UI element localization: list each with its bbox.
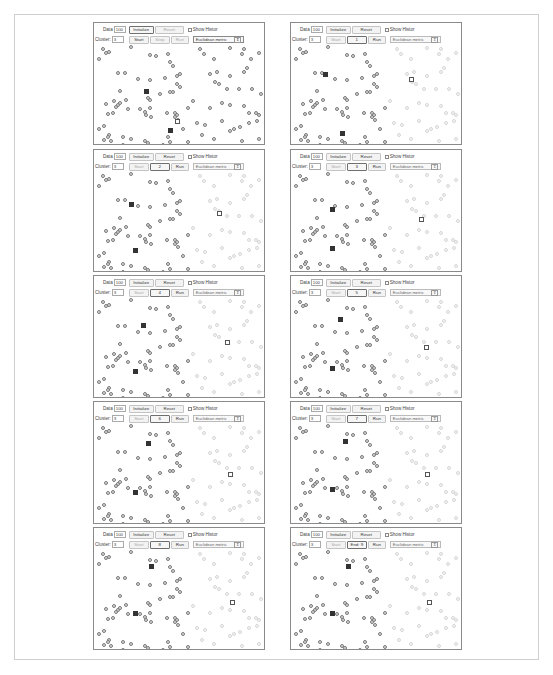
initialize-button[interactable]: Initialize bbox=[129, 531, 154, 539]
metric-select[interactable]: Euclidean metric ⇕ bbox=[193, 415, 244, 422]
show-history-checkbox[interactable]: Show Histor bbox=[385, 154, 415, 159]
checkbox-icon[interactable] bbox=[188, 533, 192, 537]
step-button[interactable]: 1 bbox=[347, 36, 367, 44]
initialize-button[interactable]: Initialize bbox=[129, 405, 154, 413]
cluster-count-input[interactable]: 3 bbox=[309, 36, 321, 43]
metric-select[interactable]: Euclidean metric ⇕ bbox=[193, 289, 244, 296]
start-button[interactable]: Start bbox=[326, 36, 346, 44]
run-button[interactable]: Run bbox=[171, 36, 189, 44]
cluster-count-input[interactable]: 3 bbox=[112, 541, 124, 548]
checkbox-icon[interactable] bbox=[188, 407, 192, 411]
cluster-count-input[interactable]: 3 bbox=[309, 289, 321, 296]
scatter-plot-canvas[interactable] bbox=[291, 549, 461, 650]
initialize-button[interactable]: Initialize bbox=[326, 26, 351, 34]
metric-select[interactable]: Euclidean metric ⇕ bbox=[390, 36, 441, 43]
checkbox-icon[interactable] bbox=[385, 407, 389, 411]
run-button[interactable]: Run bbox=[171, 289, 189, 297]
step-button[interactable]: End: 9 bbox=[347, 541, 367, 549]
step-button[interactable]: Step bbox=[150, 36, 170, 44]
start-button[interactable]: Start bbox=[129, 289, 149, 297]
scatter-plot-canvas[interactable] bbox=[291, 44, 461, 145]
start-button[interactable]: Start bbox=[326, 415, 346, 423]
checkbox-icon[interactable] bbox=[385, 281, 389, 285]
start-button[interactable]: Start bbox=[129, 36, 149, 44]
data-count-input[interactable]: 100 bbox=[311, 279, 323, 286]
run-button[interactable]: Run bbox=[368, 289, 386, 297]
data-count-input[interactable]: 100 bbox=[114, 279, 126, 286]
show-history-checkbox[interactable]: Show Histor bbox=[385, 280, 415, 285]
scatter-plot-canvas[interactable] bbox=[94, 549, 264, 650]
reset-button[interactable]: Reset bbox=[352, 405, 381, 413]
data-count-input[interactable]: 100 bbox=[114, 153, 126, 160]
show-history-checkbox[interactable]: Show Histor bbox=[188, 406, 218, 411]
show-history-checkbox[interactable]: Show Histor bbox=[385, 406, 415, 411]
start-button[interactable]: Start bbox=[326, 541, 346, 549]
start-button[interactable]: Start bbox=[129, 415, 149, 423]
data-count-input[interactable]: 100 bbox=[311, 531, 323, 538]
initialize-button[interactable]: Initialize bbox=[326, 279, 351, 287]
checkbox-icon[interactable] bbox=[385, 28, 389, 32]
metric-select[interactable]: Euclidean metric ⇕ bbox=[193, 541, 244, 548]
run-button[interactable]: Run bbox=[171, 415, 189, 423]
checkbox-icon[interactable] bbox=[385, 533, 389, 537]
initialize-button[interactable]: Initialize bbox=[129, 279, 154, 287]
step-button[interactable]: 6 bbox=[150, 415, 170, 423]
start-button[interactable]: Start bbox=[326, 163, 346, 171]
data-count-input[interactable]: 100 bbox=[311, 405, 323, 412]
reset-button[interactable]: Reset bbox=[352, 531, 381, 539]
step-button[interactable]: 5 bbox=[347, 289, 367, 297]
cluster-count-input[interactable]: 3 bbox=[309, 541, 321, 548]
reset-button[interactable]: Reset bbox=[155, 153, 184, 161]
step-button[interactable]: 7 bbox=[347, 415, 367, 423]
show-history-checkbox[interactable]: Show Histor bbox=[188, 532, 218, 537]
cluster-count-input[interactable]: 3 bbox=[112, 289, 124, 296]
metric-select[interactable]: Euclidean metric ⇕ bbox=[390, 541, 441, 548]
start-button[interactable]: Start bbox=[129, 541, 149, 549]
cluster-count-input[interactable]: 3 bbox=[309, 415, 321, 422]
cluster-count-input[interactable]: 3 bbox=[309, 163, 321, 170]
step-button[interactable]: 3 bbox=[347, 163, 367, 171]
initialize-button[interactable]: Initialize bbox=[129, 153, 154, 161]
reset-button[interactable]: Reset bbox=[352, 26, 381, 34]
step-button[interactable]: 4 bbox=[150, 289, 170, 297]
checkbox-icon[interactable] bbox=[385, 155, 389, 159]
cluster-count-input[interactable]: 3 bbox=[112, 415, 124, 422]
metric-select[interactable]: Euclidean metric ⇕ bbox=[390, 415, 441, 422]
data-count-input[interactable]: 100 bbox=[311, 26, 323, 33]
checkbox-icon[interactable] bbox=[188, 28, 192, 32]
reset-button[interactable]: Reset bbox=[155, 279, 184, 287]
data-count-input[interactable]: 100 bbox=[114, 26, 126, 33]
run-button[interactable]: Run bbox=[368, 163, 386, 171]
cluster-count-input[interactable]: 3 bbox=[112, 163, 124, 170]
cluster-count-input[interactable]: 3 bbox=[112, 36, 124, 43]
scatter-plot-canvas[interactable] bbox=[94, 44, 264, 145]
metric-select[interactable]: Euclidean metric ⇕ bbox=[390, 289, 441, 296]
reset-button[interactable]: Reset bbox=[352, 279, 381, 287]
metric-select[interactable]: Euclidean metric ⇕ bbox=[193, 36, 244, 43]
reset-button[interactable]: Reset bbox=[155, 26, 184, 34]
run-button[interactable]: Run bbox=[171, 163, 189, 171]
metric-select[interactable]: Euclidean metric ⇕ bbox=[193, 163, 244, 170]
run-button[interactable]: Run bbox=[368, 415, 386, 423]
metric-select[interactable]: Euclidean metric ⇕ bbox=[390, 163, 441, 170]
step-button[interactable]: 8 bbox=[150, 541, 170, 549]
reset-button[interactable]: Reset bbox=[155, 405, 184, 413]
scatter-plot-canvas[interactable] bbox=[94, 297, 264, 398]
show-history-checkbox[interactable]: Show Histor bbox=[188, 280, 218, 285]
scatter-plot-canvas[interactable] bbox=[94, 171, 264, 272]
data-count-input[interactable]: 100 bbox=[114, 531, 126, 538]
show-history-checkbox[interactable]: Show Histor bbox=[188, 27, 218, 32]
step-button[interactable]: 2 bbox=[150, 163, 170, 171]
scatter-plot-canvas[interactable] bbox=[291, 171, 461, 272]
run-button[interactable]: Run bbox=[368, 36, 386, 44]
initialize-button[interactable]: Initialize bbox=[326, 531, 351, 539]
reset-button[interactable]: Reset bbox=[155, 531, 184, 539]
start-button[interactable]: Start bbox=[326, 289, 346, 297]
show-history-checkbox[interactable]: Show Histor bbox=[385, 27, 415, 32]
run-button[interactable]: Run bbox=[368, 541, 386, 549]
show-history-checkbox[interactable]: Show Histor bbox=[188, 154, 218, 159]
initialize-button[interactable]: Initialize bbox=[129, 26, 154, 34]
checkbox-icon[interactable] bbox=[188, 281, 192, 285]
run-button[interactable]: Run bbox=[171, 541, 189, 549]
checkbox-icon[interactable] bbox=[188, 155, 192, 159]
